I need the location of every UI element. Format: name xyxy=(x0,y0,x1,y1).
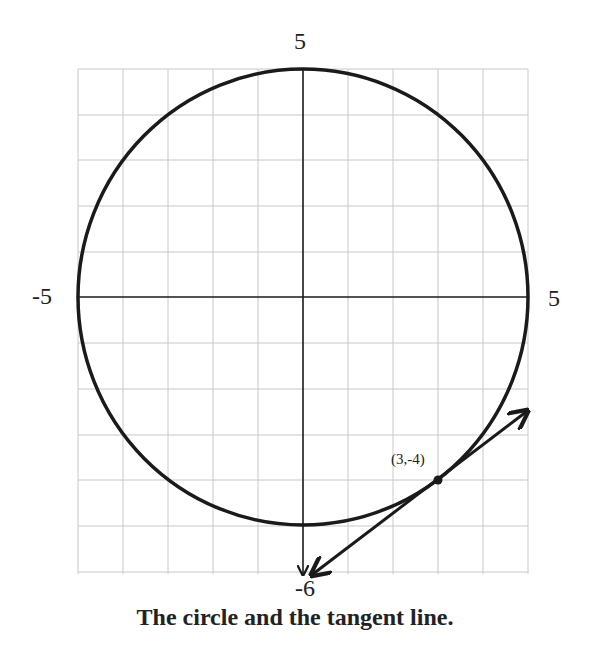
figure-caption: The circle and the tangent line. xyxy=(0,604,590,631)
label-x-left: -5 xyxy=(32,283,52,310)
axes xyxy=(78,69,528,574)
tangent-line xyxy=(313,412,526,574)
label-y-bottom: -6 xyxy=(295,575,315,602)
label-y-top: 5 xyxy=(294,28,306,55)
graph-canvas xyxy=(0,0,590,649)
point-label: (3,-4) xyxy=(391,451,425,468)
tangent-point xyxy=(434,476,443,485)
label-x-right: 5 xyxy=(548,285,560,312)
